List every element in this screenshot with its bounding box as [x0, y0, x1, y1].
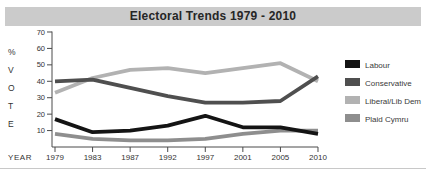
- y-axis-caption-letter: O: [8, 83, 15, 93]
- line-chart: 1020304050607019791983198719921997200120…: [0, 0, 426, 169]
- y-axis-caption-letter: E: [8, 119, 14, 129]
- y-tick-label: 40: [37, 77, 45, 86]
- legend-label-labour: Labour: [365, 61, 390, 70]
- x-tick-label: 2001: [234, 153, 252, 162]
- y-tick-label: 10: [37, 126, 45, 135]
- legend-label-liberal-lib-dem: Liberal/Lib Dem: [365, 97, 421, 106]
- x-tick-label: 2005: [272, 153, 290, 162]
- legend-swatch-conservative: [345, 78, 360, 86]
- y-axis-caption-letter: V: [8, 65, 14, 75]
- y-tick-label: 50: [37, 60, 45, 69]
- y-tick-label: 60: [37, 44, 45, 53]
- y-tick-label: 20: [37, 110, 45, 119]
- legend-swatch-labour: [345, 60, 360, 68]
- series-line-conservative: [55, 76, 318, 102]
- y-axis-caption-letter: %: [8, 47, 16, 57]
- x-tick-label: 1983: [84, 153, 102, 162]
- chart-panel: Electoral Trends 1979 - 2010 10203040506…: [0, 0, 426, 169]
- x-tick-label: 2010: [309, 153, 327, 162]
- x-tick-label: 1979: [46, 153, 64, 162]
- x-tick-label: 1997: [196, 153, 214, 162]
- x-tick-label: 1992: [159, 153, 177, 162]
- x-axis-caption: YEAR: [8, 153, 32, 162]
- y-tick-label: 70: [37, 28, 45, 37]
- legend-label-conservative: Conservative: [365, 79, 412, 88]
- y-tick-label: 30: [37, 93, 45, 102]
- x-tick-label: 1987: [121, 153, 139, 162]
- legend-swatch-plaid-cymru: [345, 114, 360, 122]
- legend-label-plaid-cymru: Plaid Cymru: [365, 115, 409, 124]
- legend-swatch-liberal-lib-dem: [345, 96, 360, 104]
- series-line-liberal-lib-dem: [55, 63, 318, 93]
- y-axis-caption-letter: T: [8, 101, 13, 111]
